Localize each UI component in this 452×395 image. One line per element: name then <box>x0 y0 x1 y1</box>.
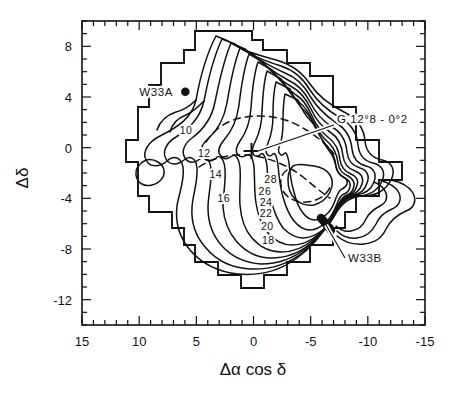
y-tick-label: 8 <box>65 39 72 54</box>
y-tick-label: 0 <box>65 141 72 156</box>
x-tick-label: -15 <box>416 334 435 349</box>
y-tick-label: -4 <box>60 191 72 206</box>
contour-label: 22 <box>260 207 273 219</box>
marker-w33a <box>181 87 190 96</box>
contour-label: 26 <box>259 185 272 197</box>
x-tick-label: 15 <box>75 334 89 349</box>
contour-label: 28 <box>264 173 277 185</box>
contour-label: 20 <box>261 220 274 232</box>
contour-label: 24 <box>260 196 273 208</box>
y-axis-label: Δδ <box>13 168 32 189</box>
annotation-w33b: W33B <box>348 252 382 264</box>
x-axis-label: Δα cos δ <box>220 360 287 379</box>
contour-label: 10 <box>180 124 193 136</box>
x-tick-label: -10 <box>358 334 377 349</box>
contour-label: 14 <box>209 168 222 180</box>
contour-label: 18 <box>262 234 275 246</box>
x-tick-label: -5 <box>305 334 317 349</box>
contour-label: 16 <box>217 192 230 204</box>
contour-label: 12 <box>198 147 211 159</box>
y-tick-label: -8 <box>60 242 72 257</box>
x-tick-label: 0 <box>250 334 257 349</box>
contour-map-figure: 151050-5-10-15 840-4-8-12 Δα cos δ Δδ <box>0 0 452 395</box>
y-tick-label: 4 <box>65 90 72 105</box>
y-tick-label: -12 <box>53 293 72 308</box>
x-tick-label: 10 <box>132 334 146 349</box>
annotation-w33a: W33A <box>139 86 173 98</box>
x-tick-label: 5 <box>193 334 200 349</box>
annotation-g12.8-0.2: G 12°8 - 0°2 <box>337 113 408 125</box>
